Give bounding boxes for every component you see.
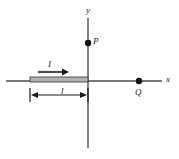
point-q-label: Q: [135, 88, 142, 97]
length-label: l: [61, 87, 64, 96]
diagram-canvas: [0, 0, 179, 159]
dimension-arrow-left: [31, 92, 38, 98]
point-q-dot: [136, 78, 142, 84]
point-p-label: P: [93, 37, 99, 46]
current-label: I: [48, 60, 51, 69]
point-p-dot: [85, 40, 91, 46]
physics-diagram-figure: y x P Q I l: [0, 0, 179, 159]
x-axis-label: x: [166, 75, 170, 84]
y-axis-label: y: [86, 6, 90, 15]
dimension-arrow-right: [80, 92, 87, 98]
current-arrow-head: [62, 69, 69, 76]
current-carrying-wire: [30, 77, 88, 82]
